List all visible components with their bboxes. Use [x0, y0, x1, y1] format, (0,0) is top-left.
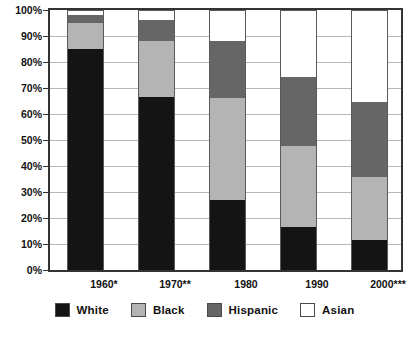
legend-item-white: White	[55, 303, 109, 317]
y-axis-tick-mark	[43, 218, 48, 219]
bar-segment-asian	[351, 10, 388, 102]
x-axis-tick-label: 2000***	[348, 278, 409, 290]
y-axis-tick-mark	[43, 244, 48, 245]
y-axis-tick-label: 50%	[0, 135, 42, 145]
legend-label: White	[77, 304, 109, 316]
y-axis-tick-label: 90%	[0, 31, 42, 41]
bar-1980	[209, 10, 246, 270]
bar-segment-black	[67, 23, 104, 49]
bar-segment-black	[138, 41, 175, 97]
y-axis-tick-mark	[43, 270, 48, 271]
bar-segment-white	[67, 49, 104, 270]
legend-label: Hispanic	[229, 304, 279, 316]
bar-segment-white	[138, 97, 175, 270]
legend-label: Asian	[322, 304, 354, 316]
y-axis-tick-label: 20%	[0, 213, 42, 223]
bar-2000	[351, 10, 388, 270]
y-axis-tick-mark	[43, 166, 48, 167]
bar-segment-hispanic	[138, 20, 175, 41]
y-axis-tick-label: 60%	[0, 109, 42, 119]
bar-segment-white	[280, 227, 317, 270]
legend-swatch-hispanic	[207, 303, 222, 317]
bar-1970	[138, 10, 175, 270]
legend-swatch-white	[55, 303, 70, 317]
legend-swatch-asian	[300, 303, 315, 317]
y-axis-tick-mark	[43, 114, 48, 115]
y-axis-tick-mark	[43, 140, 48, 141]
legend-item-asian: Asian	[300, 303, 354, 317]
y-axis-tick-mark	[43, 192, 48, 193]
y-axis-tick-mark	[43, 62, 48, 63]
bar-segment-hispanic	[280, 77, 317, 146]
y-axis-tick-label: 10%	[0, 239, 42, 249]
x-axis-tick-label: 1980	[206, 278, 286, 290]
legend-swatch-black	[131, 303, 146, 317]
bar-segment-white	[209, 200, 246, 270]
bar-1990	[280, 10, 317, 270]
x-axis-tick-label: 1970**	[135, 278, 215, 290]
bar-segment-asian	[209, 10, 246, 41]
legend-item-hispanic: Hispanic	[207, 303, 279, 317]
bar-segment-asian	[138, 10, 175, 20]
bar-segment-black	[280, 146, 317, 227]
y-axis-tick-label: 30%	[0, 187, 42, 197]
bar-segment-black	[209, 98, 246, 199]
y-axis-tick-label: 40%	[0, 161, 42, 171]
plot-area	[48, 8, 403, 272]
y-axis-tick-label: 100%	[0, 5, 42, 15]
chart-legend: WhiteBlackHispanicAsian	[0, 303, 409, 317]
bar-segment-asian	[280, 10, 317, 77]
y-axis-tick-mark	[43, 10, 48, 11]
legend-item-black: Black	[131, 303, 185, 317]
bar-segment-black	[351, 177, 388, 239]
y-axis-tick-mark	[43, 88, 48, 89]
bar-segment-white	[351, 240, 388, 270]
stacked-bar-chart: 0%10%20%30%40%50%60%70%80%90%100% 1960*1…	[0, 0, 409, 339]
bar-segment-hispanic	[67, 15, 104, 23]
bar-segment-hispanic	[351, 102, 388, 177]
y-axis-tick-label: 70%	[0, 83, 42, 93]
y-axis-tick-mark	[43, 36, 48, 37]
y-axis-tick-label: 80%	[0, 57, 42, 67]
x-axis-tick-label: 1990	[277, 278, 357, 290]
legend-label: Black	[153, 304, 185, 316]
x-axis-tick-label: 1960*	[64, 278, 144, 290]
y-axis-tick-label: 0%	[0, 265, 42, 275]
bar-1960	[67, 10, 104, 270]
bar-segment-hispanic	[209, 41, 246, 98]
